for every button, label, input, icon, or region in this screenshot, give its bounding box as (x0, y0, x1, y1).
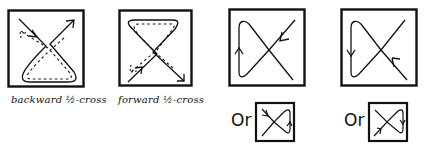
forward-half-cross-diagram (117, 8, 197, 90)
backward-half-cross-caption: backward ½-cross (11, 94, 107, 105)
forward-half-cross-caption: forward ½-cross (118, 94, 204, 105)
backward-half-cross-diagram (6, 8, 88, 90)
backward-half-cross-icon (6, 8, 88, 90)
alt-cross-loop-down-icon (367, 101, 411, 145)
forward-half-cross-icon (117, 8, 197, 90)
or-label-1: Or (231, 110, 251, 130)
or-label-2: Or (344, 110, 364, 130)
alt-cross-loop-down-diagram (367, 101, 411, 145)
cross-loop-down-diagram (339, 6, 421, 90)
alt-cross-loop-up-icon (254, 101, 298, 145)
cross-loop-up-diagram (227, 6, 309, 90)
cross-loop-down-icon (339, 6, 421, 90)
alt-cross-loop-up-diagram (254, 101, 298, 145)
cross-loop-up-icon (227, 6, 309, 90)
